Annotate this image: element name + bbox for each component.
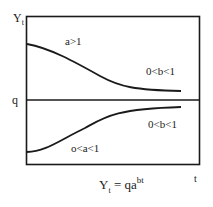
formula-rhs: = qa [111,177,137,192]
y-axis-label-sub: t [22,18,24,27]
formula-lhs: Y [99,177,108,192]
y-axis-label-main: Y [13,11,22,25]
y-axis-label: Yt [13,12,24,27]
gompertz-diagram: Yt q t a>1 0<b<1 0<b<1 o<a<1 Yt = qabt [0,0,213,207]
formula-exponent: bt [137,175,144,185]
formula: Yt = qabt [99,176,144,195]
upper-param-b-label: 0<b<1 [146,66,175,77]
x-axis-label: t [194,174,197,184]
asymptote-label: q [12,94,18,106]
upper-param-a-label: a>1 [65,36,82,47]
lower-param-a-label: o<a<1 [71,143,99,154]
lower-param-b-label: 0<b<1 [148,119,177,130]
